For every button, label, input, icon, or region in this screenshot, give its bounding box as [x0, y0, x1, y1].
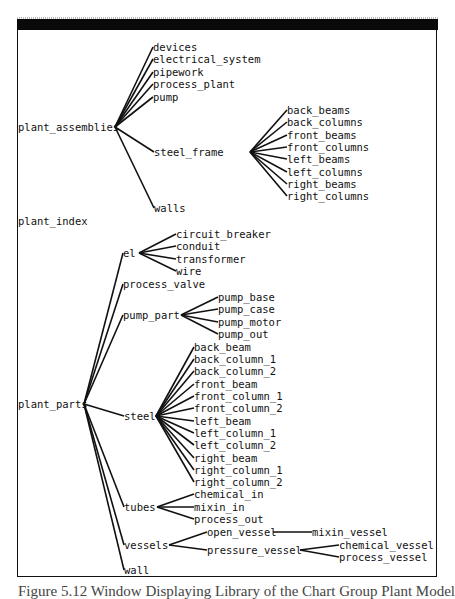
tree-node-left-column-1[interactable]: left_column_1: [194, 427, 276, 439]
tree-node-pump-motor[interactable]: pump_motor: [218, 316, 281, 328]
tree-node-electrical-system[interactable]: electrical_system: [153, 53, 260, 65]
tree-node-right-columns[interactable]: right_columns: [287, 190, 369, 202]
connector-tubes-to-chemical-in: [157, 494, 194, 507]
connector-plant-assemblies-to-pump: [115, 97, 153, 127]
connector-plant-parts-to-wall: [84, 404, 124, 570]
tree-node-wire[interactable]: wire: [176, 265, 201, 277]
tree-node-front-columns[interactable]: front_columns: [287, 141, 369, 153]
connector-pressure-vessel-to-chemical-vessel: [300, 545, 339, 550]
tree-node-conduit[interactable]: conduit: [176, 240, 220, 252]
tree-node-right-column-2[interactable]: right_column_2: [194, 476, 283, 488]
tree-node-wall[interactable]: wall: [124, 564, 149, 576]
connector-steel-to-right-column-2: [156, 416, 194, 482]
tree-node-right-beam[interactable]: right_beam: [194, 452, 257, 464]
connector-steel-frame-to-back-beams: [250, 110, 287, 152]
tree-node-left-beams[interactable]: left_beams: [287, 153, 350, 165]
connector-plant-assemblies-to-devices: [115, 47, 153, 127]
tree-node-pump-part[interactable]: pump_part: [123, 309, 180, 321]
connector-plant-assemblies-to-electrical-system: [115, 59, 153, 127]
tree-node-tubes[interactable]: tubes: [124, 501, 156, 513]
tree-node-pump-base[interactable]: pump_base: [218, 291, 275, 303]
tree-node-pressure-vessel[interactable]: pressure_vessel: [207, 544, 302, 556]
tree-node-process-out[interactable]: process_out: [194, 513, 264, 525]
connector-plant-parts-to-vessels: [84, 404, 124, 545]
tree-node-circuit-breaker[interactable]: circuit_breaker: [176, 228, 271, 240]
connector-plant-assemblies-to-process-plant: [115, 84, 153, 127]
tree-node-mixin-in[interactable]: mixin_in: [194, 501, 245, 513]
tree-node-process-vessel[interactable]: process_vessel: [339, 551, 428, 563]
tree-node-chemical-in[interactable]: chemical_in: [194, 488, 264, 500]
tree-node-el[interactable]: el: [123, 247, 136, 259]
tree-node-back-column-2[interactable]: back_column_2: [194, 365, 276, 377]
figure-caption: Figure 5.12 Window Displaying Library of…: [18, 583, 455, 599]
tree-node-left-columns[interactable]: left_columns: [287, 166, 363, 178]
tree-node-back-beam[interactable]: back_beam: [194, 341, 251, 353]
tree-node-plant-parts[interactable]: plant_parts: [18, 398, 88, 410]
tree-node-transformer[interactable]: transformer: [176, 253, 246, 265]
connector-plant-parts-to-process-valve: [84, 284, 123, 404]
connector-tubes-to-process-out: [157, 507, 194, 519]
tree-node-front-column-1[interactable]: front_column_1: [194, 390, 283, 402]
tree-node-back-beams[interactable]: back_beams: [287, 104, 350, 116]
tree-node-pump[interactable]: pump: [153, 91, 178, 103]
tree-node-open-vessel[interactable]: open_vessel: [207, 526, 277, 538]
tree-node-process-valve[interactable]: process_valve: [123, 278, 205, 290]
tree-node-front-beam[interactable]: front_beam: [194, 378, 257, 390]
tree-node-vessels[interactable]: vessels: [124, 539, 168, 551]
tree-node-pipework[interactable]: pipework: [153, 66, 204, 78]
tree-node-devices[interactable]: devices: [153, 41, 197, 53]
tree-node-front-column-2[interactable]: front_column_2: [194, 402, 283, 414]
tree-node-walls[interactable]: walls: [154, 202, 186, 214]
tree-node-right-column-1[interactable]: right_column_1: [194, 464, 283, 476]
tree-node-steel-frame[interactable]: steel_frame: [154, 146, 224, 158]
tree-node-mixin-vessel[interactable]: mixin_vessel: [312, 526, 388, 538]
connector-plant-assemblies-to-pipework: [115, 72, 153, 127]
tree-node-pump-out[interactable]: pump_out: [218, 328, 269, 340]
connector-plant-parts-to-steel: [84, 404, 124, 416]
connector-steel-to-back-column-1: [156, 359, 194, 416]
connector-plant-parts-to-tubes: [84, 404, 124, 507]
connector-pressure-vessel-to-process-vessel: [300, 550, 339, 557]
tree-node-left-beam[interactable]: left_beam: [194, 415, 251, 427]
tree-node-back-columns[interactable]: back_columns: [287, 116, 363, 128]
tree-node-pump-case[interactable]: pump_case: [218, 303, 275, 315]
connector-vessels-to-pressure-vessel: [169, 545, 207, 550]
tree-node-front-beams[interactable]: front_beams: [287, 129, 357, 141]
tree-node-chemical-vessel[interactable]: chemical_vessel: [339, 539, 434, 551]
tree-node-steel[interactable]: steel: [124, 410, 156, 422]
tree-node-back-column-1[interactable]: back_column_1: [194, 353, 276, 365]
connector-steel-frame-to-right-beams: [250, 152, 287, 184]
tree-node-left-column-2[interactable]: left_column_2: [194, 439, 276, 451]
tree-node-plant-index[interactable]: plant_index: [18, 215, 88, 227]
connector-vessels-to-open-vessel: [169, 532, 207, 545]
connector-steel-to-right-beam: [156, 416, 194, 458]
tree-node-right-beams[interactable]: right_beams: [287, 178, 357, 190]
tree-node-plant-assemblies[interactable]: plant_assemblies: [18, 121, 119, 133]
tree-node-process-plant[interactable]: process_plant: [153, 78, 235, 90]
